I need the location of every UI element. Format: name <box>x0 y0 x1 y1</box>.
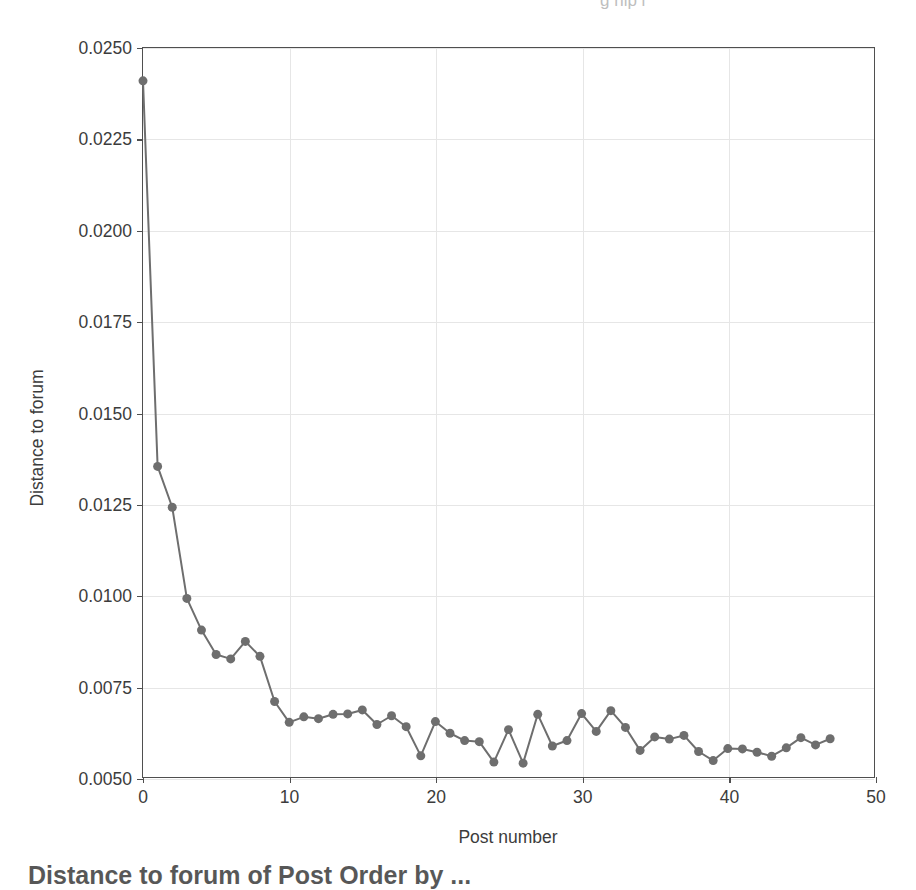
data-point-marker <box>753 748 762 757</box>
series-line <box>143 81 830 763</box>
data-point-marker <box>709 756 718 765</box>
x-tick-label: 0 <box>138 787 148 808</box>
data-point-marker <box>723 744 732 753</box>
y-tick-label: 0.0150 <box>78 403 132 424</box>
data-point-marker <box>489 758 498 767</box>
data-point-marker <box>314 714 323 723</box>
y-tick-label: 0.0050 <box>78 769 132 790</box>
y-tick-label: 0.0225 <box>78 129 132 150</box>
data-point-marker <box>826 734 835 743</box>
gridline-horizontal <box>143 779 874 780</box>
data-point-marker <box>212 650 221 659</box>
data-point-marker <box>226 654 235 663</box>
data-point-marker <box>811 740 820 749</box>
data-point-marker <box>650 732 659 741</box>
data-point-marker <box>738 744 747 753</box>
y-tick-label: 0.0175 <box>78 312 132 333</box>
data-point-marker <box>577 709 586 718</box>
data-point-marker <box>416 751 425 760</box>
x-tick-mark <box>436 777 437 783</box>
data-point-marker <box>519 759 528 768</box>
x-tick-mark <box>876 777 877 783</box>
data-point-marker <box>255 652 264 661</box>
data-point-marker <box>343 709 352 718</box>
data-point-marker <box>504 725 513 734</box>
line-series <box>143 48 874 777</box>
data-point-marker <box>592 727 601 736</box>
data-point-marker <box>358 705 367 714</box>
data-point-marker <box>372 720 381 729</box>
x-tick-label: 30 <box>573 787 592 808</box>
data-point-marker <box>285 718 294 727</box>
plot-area: 0.00500.00750.01000.01250.01500.01750.02… <box>142 47 875 778</box>
data-point-marker <box>402 722 411 731</box>
data-point-marker <box>270 697 279 706</box>
data-point-marker <box>796 733 805 742</box>
data-point-marker <box>636 746 645 755</box>
x-tick-mark <box>143 777 144 783</box>
y-tick-label: 0.0250 <box>78 38 132 59</box>
data-point-marker <box>387 711 396 720</box>
data-point-marker <box>168 503 177 512</box>
data-point-marker <box>548 742 557 751</box>
y-tick-label: 0.0075 <box>78 677 132 698</box>
data-point-marker <box>182 594 191 603</box>
data-point-marker <box>153 462 162 471</box>
y-axis-label: Distance to forum <box>27 369 48 506</box>
data-point-marker <box>460 736 469 745</box>
y-tick-label: 0.0100 <box>78 586 132 607</box>
data-point-marker <box>782 743 791 752</box>
data-point-marker <box>446 729 455 738</box>
y-tick-label: 0.0125 <box>78 494 132 515</box>
x-axis-label: Post number <box>458 827 557 848</box>
data-point-marker <box>299 712 308 721</box>
data-point-marker <box>562 736 571 745</box>
x-tick-label: 10 <box>280 787 299 808</box>
y-tick-label: 0.0200 <box>78 220 132 241</box>
data-point-marker <box>329 710 338 719</box>
x-tick-label: 50 <box>866 787 885 808</box>
data-point-marker <box>197 626 206 635</box>
data-point-marker <box>139 76 148 85</box>
data-point-marker <box>767 752 776 761</box>
clipped-top-caption: g hip i <box>600 0 645 11</box>
data-point-marker <box>606 706 615 715</box>
x-tick-label: 40 <box>720 787 739 808</box>
data-point-marker <box>621 723 630 732</box>
data-point-marker <box>679 731 688 740</box>
data-point-marker <box>475 737 484 746</box>
data-point-marker <box>431 717 440 726</box>
data-point-marker <box>533 710 542 719</box>
clipped-bottom-caption: Distance to forum of Post Order by ... <box>28 861 471 890</box>
x-tick-label: 20 <box>426 787 445 808</box>
data-point-marker <box>241 637 250 646</box>
x-tick-mark <box>729 777 730 783</box>
x-tick-mark <box>290 777 291 783</box>
data-point-marker <box>694 747 703 756</box>
x-tick-mark <box>583 777 584 783</box>
data-point-marker <box>665 735 674 744</box>
